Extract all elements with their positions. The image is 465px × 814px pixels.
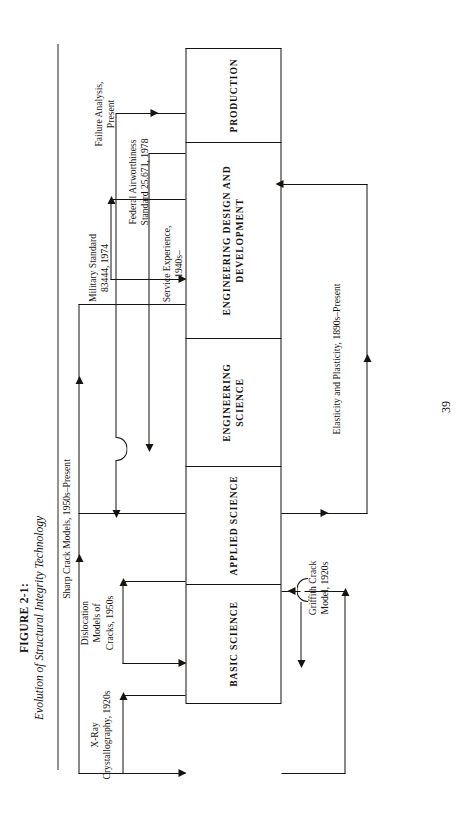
- label-griffith: Griffith Crack Model, 1920s: [306, 522, 331, 654]
- spine-cell-basic-science: BASIC SCIENCE: [185, 584, 281, 704]
- label-sharp-crack: Sharp Crack Models, 1950s–Present: [60, 414, 72, 644]
- elasticity-loop-up-right: [281, 184, 367, 185]
- label-mil-std: Military Standard 83444, 1974: [86, 208, 111, 328]
- failure-arrow-left: [112, 510, 120, 518]
- griffith-loop-down-left: [281, 773, 345, 774]
- dislocation-loop-right: [122, 581, 185, 582]
- page-number: 39: [438, 0, 453, 814]
- figure-page: FIGURE 2-1: Evolution of Structural Inte…: [0, 0, 465, 814]
- spine-cell-engineering-science: ENGINEERING SCIENCE: [185, 338, 281, 466]
- figure-number: FIGURE 2-1:: [16, 468, 30, 768]
- spine-cell-applied-science: APPLIED SCIENCE: [185, 466, 281, 584]
- dislocation-loop-left: [122, 663, 185, 664]
- griffith-spine-stub: [281, 591, 295, 592]
- figure-title: Evolution of Structural Integrity Techno…: [31, 468, 45, 768]
- label-service: Service Experience, 1940s–: [160, 194, 185, 334]
- sharp-crack-top-line: [78, 304, 79, 774]
- dislocation-loop-arrow-right: [119, 578, 127, 586]
- spine-cell-production: PRODUCTION: [185, 48, 281, 142]
- page-canvas: FIGURE 2-1: Evolution of Structural Inte…: [0, 0, 465, 814]
- dislocation-loop-arrow-down: [178, 659, 186, 667]
- griffith-loop-arrow-right: [341, 588, 349, 596]
- xray-loop-arrow-down: [178, 769, 186, 777]
- xray-loop-right: [122, 695, 185, 696]
- sharp-crack-arrow-b: [75, 376, 83, 384]
- figure-caption: FIGURE 2-1: Evolution of Structural Inte…: [16, 468, 46, 768]
- lower-return-into-spine-left: [300, 602, 301, 664]
- sharp-crack-drop-1: [78, 513, 185, 514]
- xray-loop-top: [122, 696, 123, 774]
- service-riser: [148, 153, 185, 154]
- xray-loop-arrow-right: [119, 692, 127, 700]
- griffith-loop-bottom: [344, 592, 345, 774]
- elasticity-loop-arrow-down: [320, 509, 328, 517]
- label-xray: X-Ray Crystallography, 1920s: [88, 668, 113, 802]
- label-faa-std: Federal Airworthiness Standard 25.671, 1…: [126, 106, 151, 258]
- service-arrow-right: [145, 444, 153, 452]
- milstd-loop-arrow-right: [107, 196, 115, 204]
- xray-loop-left: [122, 773, 185, 774]
- label-dislocation: Dislocation Models of Cracks, 1950s: [78, 558, 115, 688]
- spine-row: BASIC SCIENCE APPLIED SCIENCE ENGINEERIN…: [185, 48, 281, 704]
- elasticity-loop-arrow-right: [363, 354, 371, 362]
- elasticity-loop-bottom: [366, 184, 367, 514]
- label-failure: Failure Analysis, Present: [92, 44, 117, 184]
- label-elasticity: Elasticity and Plasticity, 1890s–Present: [330, 234, 342, 484]
- crossover-hop-upper: [115, 437, 127, 461]
- elasticity-loop-arrow-up: [275, 180, 283, 188]
- lower-return-arrow-left: [297, 660, 305, 668]
- spine-cell-engineering-design: ENGINEERING DESIGN AND DEVELOPMENT: [185, 142, 281, 338]
- dislocation-loop-top: [122, 582, 123, 664]
- page-rule: [57, 44, 58, 770]
